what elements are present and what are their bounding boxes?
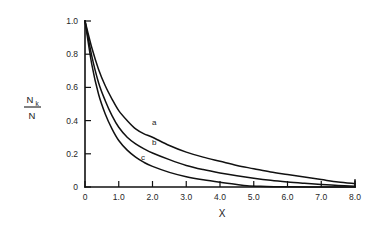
x-axis-tick-label: 7.0 [315,192,327,202]
y-axis-title-numerator: N [27,94,34,105]
x-axis-title: X [219,208,226,219]
y-axis-tick-label: 0.6 [66,82,78,92]
x-axis-tick-label: 0 [83,192,88,202]
figure-container: 00.20.40.60.81.0 01.02.03.04.05.06.07.08… [0,0,374,225]
x-axis-tick-label: 6.0 [282,192,294,202]
y-axis-tick-label: 0.8 [66,49,78,59]
y-axis-tick-label: 0.2 [66,149,78,159]
chart-canvas: 00.20.40.60.81.0 01.02.03.04.05.06.07.08… [0,0,374,225]
x-axis-tick-label: 8.0 [349,192,361,202]
x-axis-tick-labels: 01.02.03.04.05.06.07.08.0 [83,192,362,202]
x-axis-tick-label: 1.0 [113,192,125,202]
x-axis-tick-label: 5.0 [248,192,260,202]
curve-label-a: a [152,118,157,127]
curve-label-c: c [141,153,145,162]
x-axis-tick-label: 2.0 [147,192,159,202]
y-axis-tick-label: 1.0 [66,16,78,26]
x-axis-tick-label: 3.0 [180,192,192,202]
x-axis-tick-label: 4.0 [214,192,226,202]
curve-label-b: b [152,138,157,147]
y-axis-tick-label: 0.4 [66,116,78,126]
y-axis-title-denominator: N [29,110,36,121]
y-axis-tick-label: 0 [73,182,78,192]
